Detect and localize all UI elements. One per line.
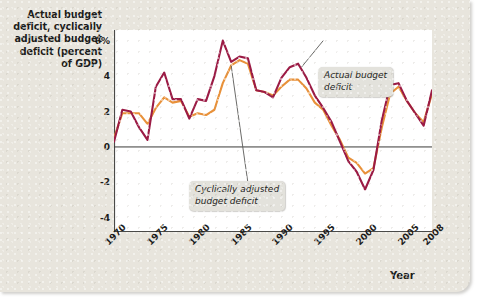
y-tick-4: 4 (80, 71, 110, 81)
leader-line-actual (301, 41, 323, 68)
y-tick-neg4: -4 (80, 213, 110, 223)
y-tick-2: 2 (80, 107, 110, 117)
x-axis-title: Year (390, 270, 415, 281)
y-tick-0: 0 (80, 142, 110, 152)
y-tick-neg2: -2 (80, 177, 110, 187)
figure-card: Actual budget deficit, cyclically adjust… (0, 0, 470, 292)
y-axis-tick-labels: 6%420-2-4 (76, 0, 110, 292)
callout-cyclically-adjusted-budget-deficit: Cyclically adjusted budget deficit (189, 181, 285, 211)
y-tick-6pct: 6% (80, 36, 110, 46)
callout-actual-budget-deficit: Actual budget deficit (318, 67, 393, 97)
leader-line-cyclical (231, 65, 249, 188)
